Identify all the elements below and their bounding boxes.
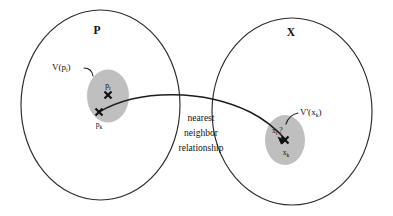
nearest-neighbor-diagram: P X V(pi) V'(xk) pi pk xi ? xk nearest n [0, 0, 393, 216]
voronoi-cell-x-label: V'(xk) [300, 107, 321, 118]
relation-caption-line1: nearest [188, 113, 215, 123]
point-pk-label-sub: k [99, 124, 102, 130]
voronoi-cell-x-label-close: ) [318, 107, 321, 117]
point-xi-label: xi ? [272, 126, 283, 136]
set-p-label: P [93, 24, 100, 36]
diagram-canvas: P X V(pi) V'(xk) pi pk xi ? xk nearest n [0, 0, 393, 216]
point-xi-label-suffix: ? [277, 126, 283, 135]
voronoi-cell-p-leader-line [84, 68, 93, 76]
set-x-label: X [287, 26, 296, 38]
set-x-ellipse [212, 18, 372, 205]
relation-caption-line3: relationship [179, 143, 224, 153]
point-xk-label-sub: k [286, 152, 289, 158]
voronoi-cell-p-label: V(pi) [52, 62, 71, 73]
voronoi-cell-x-label-prefix: V'( [300, 107, 311, 117]
relation-caption-line2: neighbor [184, 128, 219, 138]
voronoi-cell-p-label-close: ) [68, 62, 71, 72]
point-pk-label: pk [96, 120, 103, 130]
voronoi-cell-p-label-prefix: V( [52, 62, 62, 72]
